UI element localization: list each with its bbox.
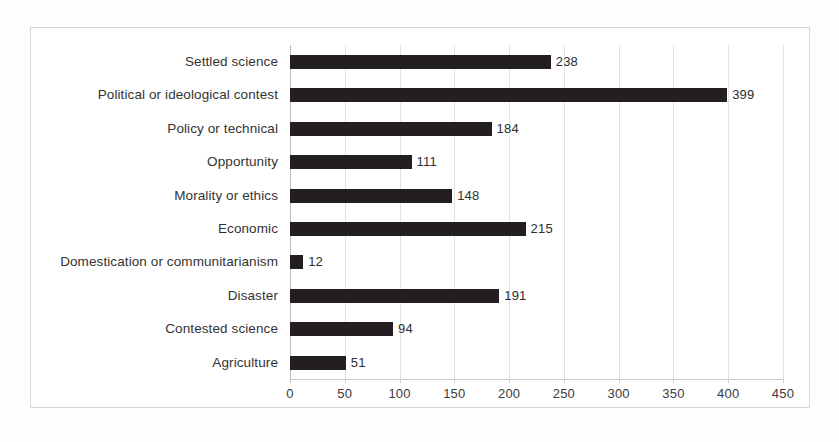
category-label: Political or ideological contest (33, 78, 278, 112)
bar[interactable] (290, 88, 727, 102)
bar[interactable] (290, 155, 412, 169)
category-label: Settled science (33, 45, 278, 79)
category-label: Opportunity (33, 145, 278, 179)
category-label: Agriculture (33, 346, 278, 380)
axis-tick-label: 300 (589, 386, 649, 401)
tick-mark-150 (454, 379, 455, 383)
bar-value-label: 51 (351, 356, 366, 370)
bar-value-label: 12 (308, 255, 323, 269)
bar[interactable] (290, 356, 346, 370)
bar-value-label: 94 (398, 322, 413, 336)
bar-value-label: 111 (417, 155, 437, 169)
axis-tick-label: 0 (260, 386, 320, 401)
tick-mark-300 (619, 379, 620, 383)
tick-mark-200 (509, 379, 510, 383)
gridline-400 (728, 45, 729, 379)
bar-value-label: 238 (556, 55, 578, 69)
category-label: Morality or ethics (33, 179, 278, 213)
bar-value-label: 399 (732, 88, 754, 102)
tick-mark-50 (345, 379, 346, 383)
tick-mark-0 (290, 379, 291, 383)
bar[interactable] (290, 255, 303, 269)
bar-value-label: 191 (504, 289, 526, 303)
bar-value-label: 184 (497, 122, 519, 136)
tick-mark-350 (673, 379, 674, 383)
axis-tick-label: 150 (424, 386, 484, 401)
tick-mark-250 (564, 379, 565, 383)
axis-tick-label: 350 (643, 386, 703, 401)
bar-value-label: 148 (457, 189, 479, 203)
tick-mark-400 (728, 379, 729, 383)
tick-mark-450 (783, 379, 784, 383)
category-label: Contested science (33, 312, 278, 346)
bar[interactable] (290, 322, 393, 336)
axis-tick-label: 100 (370, 386, 430, 401)
axis-tick-label: 200 (479, 386, 539, 401)
category-label: Policy or technical (33, 112, 278, 146)
axis-tick-label: 400 (698, 386, 758, 401)
value-axis-line (290, 379, 783, 380)
bar[interactable] (290, 289, 499, 303)
bar[interactable] (290, 189, 452, 203)
chart-frame: 050100150200250300350400450 Settled scie… (30, 27, 810, 408)
bar[interactable] (290, 222, 526, 236)
axis-tick-label: 450 (753, 386, 813, 401)
category-label: Domestication or communitarianism (33, 245, 278, 279)
bar[interactable] (290, 122, 492, 136)
bar-value-label: 215 (531, 222, 553, 236)
axis-tick-label: 50 (315, 386, 375, 401)
bar[interactable] (290, 55, 551, 69)
gridline-450 (783, 45, 784, 379)
axis-tick-label: 250 (534, 386, 594, 401)
category-label: Disaster (33, 279, 278, 313)
category-label: Economic (33, 212, 278, 246)
tick-mark-100 (400, 379, 401, 383)
